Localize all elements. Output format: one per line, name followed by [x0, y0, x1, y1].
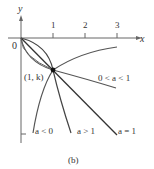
x-tick-label-1: 1 [51, 20, 56, 30]
point-1-k [51, 68, 56, 73]
x-tick-label-2: 2 [83, 20, 88, 30]
curve-a-greater-1 [21, 38, 71, 133]
figure-caption: (b) [68, 155, 79, 165]
x-axis-label: x [139, 33, 145, 44]
curve-a-less-0-right [53, 47, 117, 70]
curve-label-a-greater-1: a > 1 [77, 126, 95, 136]
y-axis-label: y [17, 3, 23, 14]
power-function-diagram: y x 0 1 2 3 (1, k) 0 < a < 1 a < 0 a > 1… [0, 0, 154, 169]
curve-label-a-less-0: a < 0 [35, 126, 54, 136]
point-label: (1, k) [24, 72, 44, 82]
x-tick-label-3: 3 [115, 20, 120, 30]
origin-label: 0 [12, 40, 17, 51]
curve-label-a-equals-1: a = 1 [118, 126, 136, 136]
curve-label-a-between-0-1: 0 < a < 1 [98, 73, 130, 83]
y-axis-arrow-icon [19, 15, 23, 21]
